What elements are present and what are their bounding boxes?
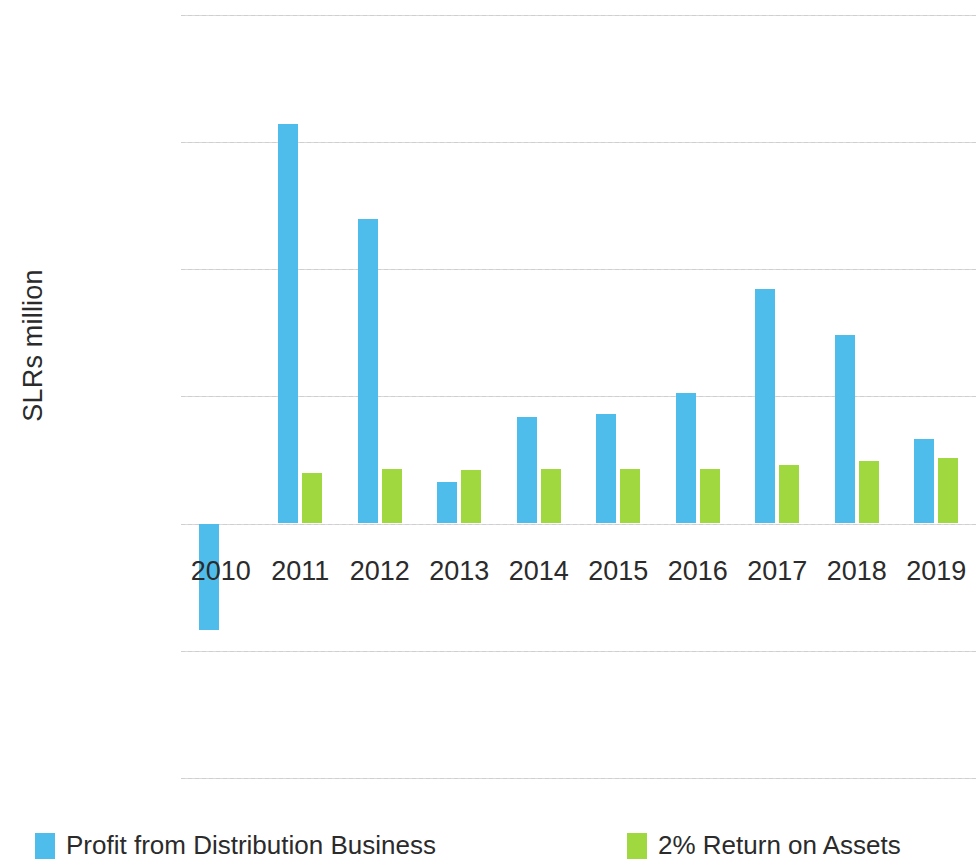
bar-profit-2012 xyxy=(358,219,378,524)
bar-profit-2013 xyxy=(437,482,457,524)
bar-roa-2014 xyxy=(541,469,561,523)
gridline xyxy=(181,524,976,525)
bar-roa-2011 xyxy=(302,473,322,523)
plot-area: 2,0001,5001,0005000-500-1,00020102011201… xyxy=(181,0,976,800)
bar-profit-2015 xyxy=(596,414,616,523)
bar-chart: SLRs million 2,0001,5001,0005000-500-1,0… xyxy=(0,0,976,864)
bar-profit-2019 xyxy=(914,439,934,523)
bar-roa-2015 xyxy=(620,469,640,524)
legend-swatch-icon xyxy=(627,833,647,859)
gridline xyxy=(181,778,976,779)
bar-profit-2011 xyxy=(278,124,298,524)
legend-label: Profit from Distribution Business xyxy=(66,830,436,861)
x-axis-tick-label: 2019 xyxy=(906,556,966,587)
bar-roa-2016 xyxy=(700,469,720,523)
x-axis-tick-label: 2014 xyxy=(509,556,569,587)
x-axis-tick-label: 2010 xyxy=(191,556,251,587)
gridline xyxy=(181,396,976,397)
x-axis-tick-label: 2018 xyxy=(827,556,887,587)
legend-swatch-icon xyxy=(35,833,55,859)
legend-item-2[interactable]: 2% Return on Assets xyxy=(627,830,901,861)
bar-roa-2018 xyxy=(859,461,879,523)
y-axis-title: SLRs million xyxy=(18,251,49,441)
x-axis-tick-label: 2015 xyxy=(588,556,648,587)
x-axis-tick-label: 2013 xyxy=(429,556,489,587)
x-axis-tick-label: 2017 xyxy=(747,556,807,587)
bar-profit-2018 xyxy=(835,335,855,523)
x-axis-tick-label: 2016 xyxy=(668,556,728,587)
x-axis-tick-label: 2012 xyxy=(350,556,410,587)
gridline xyxy=(181,269,976,270)
bar-roa-2013 xyxy=(461,470,481,523)
gridline xyxy=(181,142,976,143)
legend-item-1[interactable]: Profit from Distribution Business xyxy=(35,830,436,861)
legend-label: 2% Return on Assets xyxy=(658,830,901,861)
gridline xyxy=(181,15,976,16)
bar-roa-2019 xyxy=(938,458,958,523)
chart-legend: Profit from Distribution Business2% Retu… xyxy=(0,826,976,864)
gridline xyxy=(181,651,976,652)
bar-roa-2017 xyxy=(779,465,799,523)
bar-profit-2014 xyxy=(517,417,537,523)
bar-roa-2012 xyxy=(382,469,402,524)
x-axis-tick-label: 2011 xyxy=(271,556,329,587)
bar-profit-2016 xyxy=(676,393,696,523)
bar-profit-2017 xyxy=(755,289,775,523)
